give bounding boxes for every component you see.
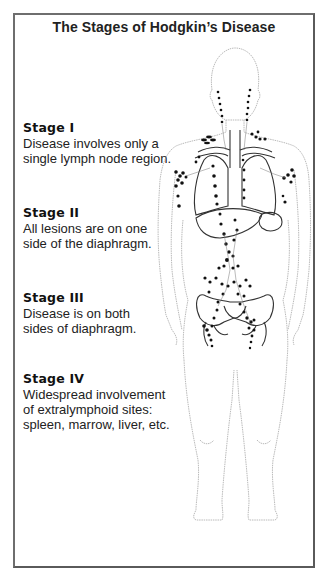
body-lymph-diagram <box>140 38 315 528</box>
body-outline <box>158 48 310 520</box>
lymph-nodes <box>174 89 296 350</box>
diagram-title: The Stages of Hodgkin’s Disease <box>15 19 313 35</box>
organs <box>194 130 282 346</box>
